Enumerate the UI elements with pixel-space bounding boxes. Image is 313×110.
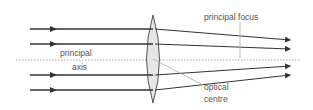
incident-ray-arrowheads: [50, 26, 57, 93]
refracted-rays: [155, 29, 290, 90]
principal-axis-label-line2: axis: [72, 62, 87, 72]
incident-rays: [30, 29, 153, 90]
lens-ray-diagram-graphic: [0, 0, 313, 110]
converging-lens-diagram: principal axis principal focus optical c…: [0, 0, 313, 110]
principal-focus-label: principal focus: [204, 12, 258, 22]
optical-centre-label-line1: optical: [204, 82, 229, 92]
optical-centre-label-line2: centre: [204, 94, 228, 104]
principal-axis-label-line1: principal: [60, 48, 92, 58]
